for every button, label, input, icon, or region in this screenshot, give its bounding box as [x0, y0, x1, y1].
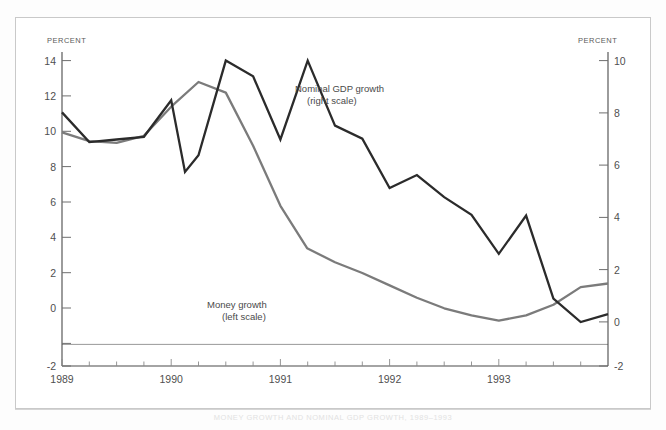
right-axis-title: PERCENT [578, 36, 617, 45]
left-axis-title: PERCENT [47, 36, 86, 45]
left-axis-ticks [62, 61, 71, 366]
money-series-annotation-line2: (left scale) [222, 311, 266, 322]
x-year-label-1991: 1991 [269, 373, 293, 385]
right-tick-label-4: 4 [614, 211, 620, 223]
left-tick-label-0: 0 [50, 302, 56, 314]
left-tick-label-8: 8 [50, 161, 56, 173]
right-tick-label-10: 10 [614, 55, 626, 67]
left-tick-label-10: 10 [44, 125, 56, 137]
x-year-label-1992: 1992 [378, 373, 402, 385]
left-tick-label-neg2: -2 [47, 360, 56, 372]
series-money-growth [62, 82, 608, 321]
right-tick-label-0: 0 [614, 316, 620, 328]
right-tick-label-2: 2 [614, 264, 620, 276]
left-tick-label-2: 2 [50, 267, 56, 279]
left-tick-label-4: 4 [50, 231, 56, 243]
x-year-label-1990: 1990 [160, 373, 184, 385]
right-tick-label-neg2: -2 [614, 360, 623, 372]
chart-plot-area: 14 12 10 8 6 4 2 0 -2 10 8 6 4 2 [0, 0, 666, 430]
figure-caption: MONEY GROWTH AND NOMINAL GDP GROWTH, 198… [15, 413, 651, 422]
right-tick-label-6: 6 [614, 159, 620, 171]
gdp-series-annotation-line2: (right scale) [307, 95, 357, 106]
x-year-label-1989: 1989 [50, 373, 74, 385]
gdp-series-annotation-line1: Nominal GDP growth [295, 83, 384, 94]
left-tick-label-6: 6 [50, 196, 56, 208]
left-tick-label-14: 14 [44, 55, 56, 67]
caption-divider [15, 409, 651, 410]
left-tick-label-12: 12 [44, 90, 56, 102]
right-axis-ticks [599, 61, 608, 366]
figure-page: 14 12 10 8 6 4 2 0 -2 10 8 6 4 2 [0, 0, 666, 430]
line-chart-svg: 14 12 10 8 6 4 2 0 -2 10 8 6 4 2 [0, 0, 666, 430]
right-tick-label-8: 8 [614, 107, 620, 119]
x-axis-ticks [62, 359, 581, 366]
money-series-annotation-line1: Money growth [207, 299, 267, 310]
x-year-label-1993: 1993 [487, 373, 511, 385]
